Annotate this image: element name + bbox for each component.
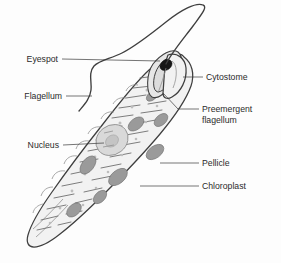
label-eyespot: Eyespot bbox=[27, 54, 59, 64]
label-nucleus: Nucleus bbox=[28, 140, 60, 150]
cell-body-group bbox=[27, 4, 204, 247]
label-flagellum: Flagellum bbox=[24, 91, 62, 101]
label-pellicle: Pellicle bbox=[202, 158, 230, 168]
label-preemergent-flagellum-line2: flagellum bbox=[202, 115, 237, 125]
leader-eyespot bbox=[62, 59, 160, 61]
label-preemergent-flagellum: Preemergent bbox=[202, 104, 253, 114]
label-cytostome: Cytostome bbox=[206, 72, 248, 82]
label-chloroplast: Chloroplast bbox=[202, 181, 247, 191]
euglena-diagram: Eyespot Flagellum Nucleus Cytostome Pree… bbox=[0, 0, 281, 263]
